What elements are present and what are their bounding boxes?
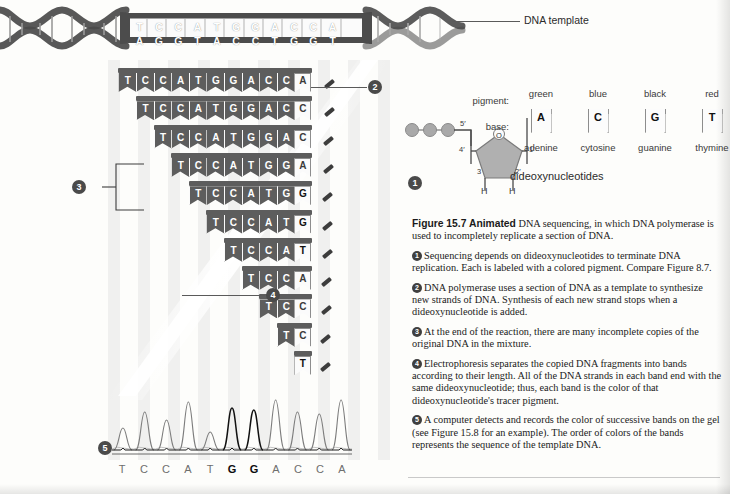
strand-base: T (118, 73, 136, 92)
template-bottom-base: T (323, 35, 342, 47)
template-top-base: T (130, 21, 149, 33)
strand-row: T (294, 351, 312, 377)
caption-step-number: 3 (412, 327, 422, 337)
gel-band (321, 305, 332, 315)
strand-base: G (277, 186, 295, 205)
chromatogram-base-label: T (200, 463, 220, 475)
gel-band (323, 136, 334, 146)
strand-base: A (189, 101, 207, 120)
strand-base: A (277, 130, 295, 149)
strand-base: C (206, 158, 224, 177)
chromatogram-base-label: C (156, 463, 176, 475)
caption-step: 1Sequencing depends on dideoxynucleotide… (412, 250, 722, 275)
callout-marker-4: 4 (266, 288, 280, 302)
strand-row: TCCATGGA (171, 153, 312, 179)
caption-step: 2DNA polymerase uses a section of DNA as… (412, 282, 722, 319)
caption-title-paragraph: Figure 15.7 Animated DNA sequencing, in … (412, 218, 722, 243)
gel-band (322, 220, 333, 230)
strand-backbone-bar (154, 125, 312, 130)
strand-backbone-bar (206, 210, 312, 215)
strand-base: T (224, 243, 242, 262)
strand-row: TCCATG (206, 210, 312, 236)
strand-backbone-bar (136, 96, 312, 101)
chromatogram-peak (223, 408, 241, 450)
template-top-base: G (246, 21, 265, 33)
chromatogram-base-label: G (222, 463, 242, 475)
strand-backbone-bar (277, 323, 312, 328)
pigment-name: green (518, 88, 564, 99)
strand-base: A (224, 158, 242, 177)
strand-row: TCCATGGACCA (118, 68, 312, 94)
strand-base: A (259, 101, 277, 120)
strand-base: G (277, 158, 295, 177)
gel-band (321, 277, 332, 287)
dna-template-leader-line (452, 21, 520, 22)
dideoxynucleotide-column: blueCcytosine (575, 88, 621, 153)
strand-base: G (259, 130, 277, 149)
chromatogram-base-label: C (310, 463, 330, 475)
caption-step-number: 2 (412, 283, 422, 293)
strand-base: T (277, 328, 295, 347)
strand-backbone-bar (242, 266, 312, 271)
strand-base: T (154, 130, 172, 149)
strand-backbone-bar (189, 181, 312, 186)
callout4-leader-line (182, 295, 265, 296)
strand-base: T (136, 101, 154, 120)
strand-base: T (206, 215, 224, 234)
strand-row: TCCATGG (189, 181, 312, 207)
terminator-base: G (294, 215, 311, 234)
pigment-row-label: pigment: (399, 95, 509, 106)
strand-base: C (242, 215, 260, 234)
gel-band (322, 192, 333, 202)
caption-step-text: A computer detects and records the color… (412, 414, 720, 450)
strand-base: C (259, 243, 277, 262)
template-bottom-base: A (130, 35, 149, 47)
template-bottom-base: C (246, 35, 265, 47)
base-tag: C (588, 109, 609, 133)
strand-base: C (171, 130, 189, 149)
callout2-leader-line (311, 87, 367, 88)
template-bottom-base: G (169, 35, 188, 47)
base-full-name: adenine (518, 142, 564, 153)
template-bottom-strand: AGGTACCTGGT (130, 35, 342, 47)
base-full-name: guanine (632, 142, 678, 153)
strand-base: C (224, 215, 242, 234)
template-bottom-base: G (304, 35, 323, 47)
strand-base: C (136, 73, 154, 92)
chromatogram-peak (288, 412, 306, 450)
template-bottom-base: G (284, 35, 303, 47)
base-tag: G (645, 109, 666, 133)
chromatogram-base-label: C (134, 463, 154, 475)
strand-base: C (154, 73, 172, 92)
strand-base: G (242, 130, 260, 149)
terminator-base: T (294, 243, 311, 262)
caption-step: 3At the end of the reaction, there are m… (412, 326, 722, 351)
dideoxynucleotides-caption: dideoxynucleotides (510, 170, 604, 182)
template-top-base: C (304, 21, 323, 33)
chromatogram-svg (112, 398, 352, 460)
gel-band (320, 334, 331, 344)
chromatogram-peak (332, 400, 350, 450)
chromatogram-base-label: C (288, 463, 308, 475)
template-bottom-base: T (188, 35, 207, 47)
chromatogram-base-label: G (244, 463, 264, 475)
strand-base: T (259, 186, 277, 205)
strand-base: T (242, 158, 260, 177)
template-top-base: A (265, 21, 284, 33)
bracket-incomplete-copies (86, 162, 146, 216)
base-full-name: cytosine (575, 142, 621, 153)
strand-base: C (206, 186, 224, 205)
chromatogram-base-label: T (112, 463, 132, 475)
strand-base: G (224, 73, 242, 92)
template-bottom-base: T (265, 35, 284, 47)
chromatogram-peak (179, 402, 197, 450)
strand-row: TCCAT (224, 238, 312, 264)
chromatogram-trace (112, 398, 352, 460)
strand-base: C (277, 271, 295, 290)
strand-base: G (242, 101, 260, 120)
caption-step-number: 5 (412, 415, 422, 425)
dideoxynucleotide-column: greenAadenine (518, 88, 564, 153)
base-row-label: base: (399, 121, 509, 132)
dna-template-helix (0, 0, 470, 68)
strand-base: T (206, 101, 224, 120)
